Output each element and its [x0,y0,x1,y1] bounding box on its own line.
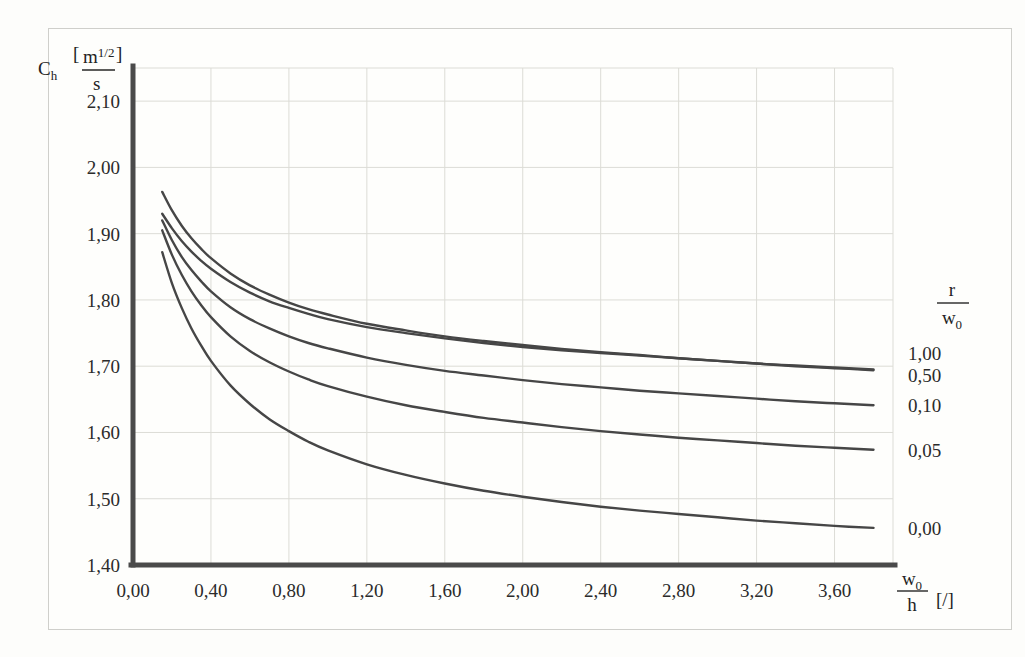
y-tick-label: 1,40 [87,555,120,576]
legend-title: r w0 [937,279,969,332]
legend-entry: 0,00 [908,518,941,539]
y-tick-label: 2,00 [87,157,120,178]
y-unit-denominator: s [93,73,100,94]
chart-figure: 0,000,400,801,201,602,002,402,803,203,60… [0,0,1025,657]
legend-title-denominator: w0 [942,307,962,332]
y-axis-symbol: Ch [38,58,58,83]
x-tick-label: 3,60 [818,580,851,601]
legend-entry: 0,05 [908,440,941,461]
x-axis-title: w0 h [/] [897,568,954,615]
curve-series-group [162,192,873,528]
y-tick-label: 1,60 [87,422,120,443]
curve-series [162,220,873,405]
y-tick-label: 1,90 [87,224,120,245]
x-tick-label: 1,60 [428,580,461,601]
legend-value-labels: 1,000,500,100,050,00 [908,343,941,539]
y-tick-label: 1,70 [87,356,120,377]
chart-svg: 0,000,400,801,201,602,002,402,803,203,60… [0,0,1025,657]
x-title-unit: [/] [936,589,954,610]
y-tick-label: 1,50 [87,489,120,510]
legend-title-numerator: r [949,279,956,300]
y-axis-title: Ch [ m1/2 s ] [38,43,122,94]
x-tick-label: 0,40 [194,580,227,601]
x-tick-label: 2,80 [662,580,695,601]
legend-entry: 0,10 [908,395,941,416]
x-tick-label: 1,20 [350,580,383,601]
x-tick-label: 3,20 [740,580,773,601]
y-tick-label: 2,10 [87,91,120,112]
curve-series [162,230,873,449]
legend-entry: 1,00 [908,343,941,364]
y-tick-label: 1,80 [87,290,120,311]
y-unit-bracket-close: ] [116,43,122,64]
x-tick-label: 2,40 [584,580,617,601]
x-tick-label: 2,00 [506,580,539,601]
y-unit-numerator: m1/2 [83,45,114,67]
x-title-denominator: h [907,594,917,615]
curve-series [162,192,873,370]
x-title-numerator: w0 [902,568,922,593]
y-axis-tick-labels: 1,401,501,601,701,801,902,002,10 [87,91,120,576]
curve-series [162,214,873,370]
legend-entry: 0,50 [908,365,941,386]
y-unit-bracket-open: [ [73,43,79,64]
x-axis-tick-labels: 0,000,400,801,201,602,002,402,803,203,60 [116,580,851,601]
x-tick-label: 0,80 [272,580,305,601]
x-tick-label: 0,00 [116,580,149,601]
